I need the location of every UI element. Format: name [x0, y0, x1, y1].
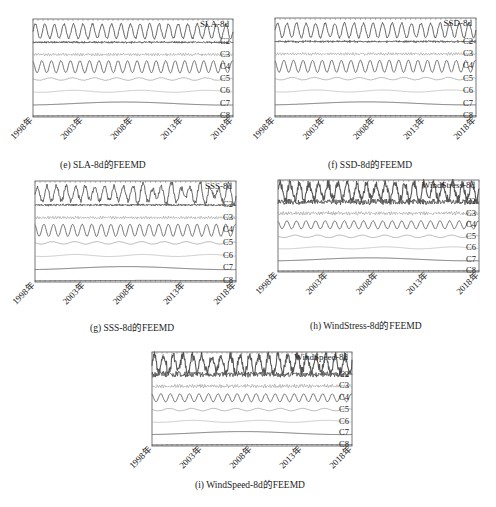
- component-label: C3: [463, 48, 473, 58]
- caption-i: (i) WindSpeed-8d的FEEMD: [195, 477, 305, 491]
- x-tick-label: 1998年: [250, 115, 277, 142]
- component-label: C4: [339, 392, 350, 402]
- x-tick-label: 2013年: [160, 280, 187, 307]
- x-tick-label: 2013年: [400, 115, 427, 142]
- component-label: C5: [223, 237, 233, 247]
- x-tick-label: 1998年: [253, 270, 280, 297]
- series-label: SSD-8d: [443, 18, 472, 28]
- component-label: C6: [466, 242, 476, 252]
- x-tick-label: 2013年: [158, 115, 185, 142]
- component-label: C6: [339, 416, 349, 426]
- x-tick-label: 1998年: [10, 280, 37, 307]
- component-label: C3: [339, 380, 349, 390]
- series-label: SSS-8d: [205, 181, 233, 191]
- component-label: C2: [223, 199, 233, 209]
- x-tick-label: 1998年: [127, 444, 154, 471]
- component-label: C4: [223, 224, 234, 234]
- component-label: C6: [463, 85, 473, 95]
- component-label: C3: [466, 208, 476, 218]
- component-label: C3: [223, 212, 233, 222]
- component-label: C5: [463, 73, 473, 83]
- component-label: C5: [220, 73, 230, 83]
- component-label: C7: [339, 427, 349, 437]
- x-tick-label: 2008年: [350, 115, 377, 142]
- component-label: C7: [220, 98, 230, 108]
- x-tick-label: 2003年: [177, 444, 204, 471]
- component-label: C5: [339, 404, 349, 414]
- component-label: C6: [220, 85, 230, 95]
- component-label: C7: [223, 262, 233, 272]
- x-tick-label: 2008年: [353, 270, 380, 297]
- x-tick-label: 2008年: [110, 280, 137, 307]
- series-label: SLA-8d: [200, 19, 229, 29]
- x-tick-label: 2003年: [300, 115, 327, 142]
- component-label: C4: [463, 60, 474, 70]
- series-label: WindSpeed-8d: [294, 352, 348, 362]
- x-tick-label: 2003年: [60, 280, 87, 307]
- component-label: C2: [466, 196, 476, 206]
- caption-h: (h) WindStress-8d的FEEMD: [310, 318, 422, 332]
- component-label: C5: [466, 231, 476, 241]
- x-tick-label: 2013年: [277, 444, 304, 471]
- caption-f: (f) SSD-8d的FEEMD: [328, 157, 412, 171]
- component-label: C6: [223, 250, 233, 260]
- x-tick-label: 2003年: [303, 270, 330, 297]
- x-tick-label: 1998年: [8, 115, 35, 142]
- caption-e: (e) SLA-8d的FEEMD: [60, 157, 146, 171]
- component-label: C4: [220, 61, 231, 71]
- x-tick-label: 2008年: [227, 444, 254, 471]
- x-tick-label: 2003年: [58, 115, 85, 142]
- component-label: C4: [466, 219, 477, 229]
- series-label: WindStress-8d: [422, 180, 476, 190]
- x-tick-label: 2008年: [108, 115, 135, 142]
- component-label: C2: [339, 369, 349, 379]
- component-label: C2: [463, 36, 473, 46]
- caption-g: (g) SSS-8d的FEEMD: [90, 320, 174, 334]
- x-tick-label: 2013年: [403, 270, 430, 297]
- component-label: C7: [463, 98, 473, 108]
- component-label: C3: [220, 49, 230, 59]
- component-label: C7: [466, 254, 476, 264]
- component-label: C2: [220, 36, 230, 46]
